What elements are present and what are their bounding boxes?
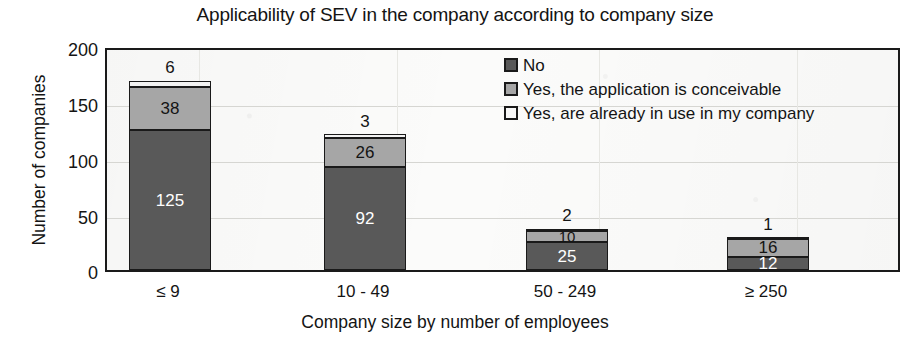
bar-group-ge-250[interactable]: 1 16 12 [727,238,809,271]
y-tick-200: 200 [38,41,98,59]
segment-conceivable-le-9[interactable]: 38 [129,87,211,130]
legend-label-no: No [523,56,545,75]
legend-swatch-in-use-icon [504,106,518,120]
legend-label-in-use: Yes, are already in use in my company [523,104,814,123]
y-tick-0: 0 [38,264,98,282]
plot-area: 6 38 125 3 26 92 2 10 [105,48,900,272]
x-tick-ge-250: ≥ 250 [686,282,846,301]
segment-label-conceivable-le-9: 38 [161,100,180,117]
legend-label-conceivable: Yes, the application is conceivable [523,80,781,99]
segment-label-no-50-249: 25 [558,248,577,265]
segment-no-le-9[interactable]: 125 [129,130,211,270]
segment-no-ge-250[interactable]: 12 [727,257,809,270]
x-tick-10-49: 10 - 49 [283,282,443,301]
legend-item-conceivable[interactable]: Yes, the application is conceivable [504,78,814,100]
legend-item-no[interactable]: No [504,54,814,76]
legend-swatch-no-icon [504,58,518,72]
segment-label-no-le-9: 125 [156,192,184,209]
segment-conceivable-50-249[interactable]: 10 [526,231,608,242]
bar-group-le-9[interactable]: 6 38 125 [129,81,211,270]
bar-total-label-le-9: 6 [129,59,211,76]
legend: No Yes, the application is conceivable Y… [504,54,814,124]
x-axis-title: Company size by number of employees [0,312,910,332]
bar-group-50-249[interactable]: 2 10 25 [526,229,608,270]
segment-label-no-10-49: 92 [356,210,375,227]
segment-label-no-ge-250: 12 [759,255,778,272]
x-tick-50-249: 50 - 249 [485,282,645,301]
bar-group-10-49[interactable]: 3 26 92 [324,135,406,271]
bar-total-label-10-49: 3 [324,113,406,130]
chart-figure: Applicability of SEV in the company acco… [0,0,910,345]
chart-title: Applicability of SEV in the company acco… [0,4,910,26]
legend-item-in-use[interactable]: Yes, are already in use in my company [504,102,814,124]
x-tick-le-9: ≤ 9 [88,282,248,301]
bar-total-label-ge-250: 1 [727,216,809,233]
segment-conceivable-10-49[interactable]: 26 [324,138,406,167]
y-tick-50: 50 [38,209,98,227]
gridline-100 [107,162,898,163]
segment-no-50-249[interactable]: 25 [526,242,608,270]
segment-no-10-49[interactable]: 92 [324,167,406,270]
legend-swatch-conceivable-icon [504,82,518,96]
y-tick-150: 150 [38,97,98,115]
segment-label-conceivable-10-49: 26 [356,144,375,161]
segment-in-use-le-9[interactable] [129,81,211,88]
bar-total-label-50-249: 2 [526,207,608,224]
y-tick-100: 100 [38,153,98,171]
